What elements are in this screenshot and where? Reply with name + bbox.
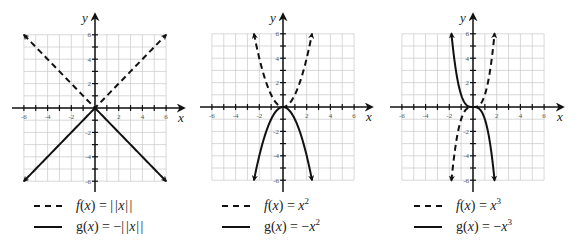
dashed-line-swatch xyxy=(222,205,250,207)
function-name: g xyxy=(456,219,463,234)
x-tick-label: 6 xyxy=(352,112,356,120)
function-power: 3 xyxy=(497,196,502,206)
legend-entry-f: f(x) = x2 xyxy=(222,196,309,216)
x-tick-label: -4 xyxy=(45,113,51,121)
y-axis-label: y xyxy=(458,10,466,25)
y-axis-label: y xyxy=(80,10,88,25)
solid-line-swatch xyxy=(414,226,442,228)
x-tick-label: 6 xyxy=(164,113,168,121)
x-axis-label: x xyxy=(365,109,372,124)
function-arg: (x) = xyxy=(460,198,490,213)
x-tick-label: 4 xyxy=(329,112,333,120)
y-tick-label: -4 xyxy=(273,152,279,160)
y-tick-label: -2 xyxy=(273,128,279,136)
y-tick-label: 2 xyxy=(276,79,280,87)
function-power: 2 xyxy=(305,196,310,206)
legend-label: g(x) = −x3 xyxy=(456,219,512,235)
dashed-line-swatch xyxy=(34,205,62,207)
legend-entry-f: f(x) = x3 xyxy=(414,196,501,216)
function-expr: |x| xyxy=(125,219,139,234)
legend-entry-g: g(x) = −x3 xyxy=(414,217,512,237)
x-tick-label: -4 xyxy=(423,112,429,120)
x-tick-label: 2 xyxy=(117,113,121,121)
x-tick-label: -6 xyxy=(209,112,215,120)
solid-line-swatch xyxy=(222,226,250,228)
y-tick-label: 6 xyxy=(276,30,280,38)
chart-1: -6-4-2246642-2-4-6xy xyxy=(12,10,184,192)
y-tick-label: 4 xyxy=(88,56,92,64)
y-axis-label: y xyxy=(268,10,276,25)
abs-expr: | |x| | xyxy=(110,198,132,213)
function-power: 3 xyxy=(508,217,513,227)
legend-entry-f: f(x) = | |x| | xyxy=(34,196,132,216)
solid-line-swatch xyxy=(34,226,62,228)
function-power: 2 xyxy=(316,217,321,227)
function-name: g xyxy=(76,219,83,234)
x-tick-label: -6 xyxy=(399,112,405,120)
x-tick-label: -2 xyxy=(446,112,452,120)
figure: -6-4-2246642-2-4-6xy-6-4-2246642-2-4-6xy… xyxy=(0,0,581,246)
function-name: g xyxy=(264,219,271,234)
x-tick-label: 4 xyxy=(519,112,523,120)
y-tick-label: 2 xyxy=(466,79,470,87)
legend-label: f(x) = x2 xyxy=(264,198,309,214)
legend-label: f(x) = | |x| | xyxy=(76,198,132,214)
legend-entry-g: g(x) = −x2 xyxy=(222,217,320,237)
y-tick-label: -4 xyxy=(85,153,91,161)
legend-label: g(x) = −| |x| | xyxy=(76,219,143,235)
y-tick-label: -2 xyxy=(463,128,469,136)
y-tick-label: 6 xyxy=(88,31,92,39)
x-tick-label: -4 xyxy=(233,112,239,120)
y-tick-label: -6 xyxy=(85,178,91,186)
y-tick-label: 4 xyxy=(466,55,470,63)
chart-2: -6-4-2246642-2-4-6xy xyxy=(200,10,372,192)
x-tick-label: 2 xyxy=(305,112,309,120)
y-tick-label: -2 xyxy=(85,129,91,137)
x-axis-label: x xyxy=(556,109,563,124)
x-tick-label: 6 xyxy=(542,112,546,120)
function-arg: (x) = xyxy=(83,219,113,234)
x-tick-label: 2 xyxy=(495,112,499,120)
function-arg: (x) = xyxy=(463,219,493,234)
chart-3: -6-4-2246642-2-4-6xy xyxy=(390,10,563,192)
y-tick-label: -6 xyxy=(273,177,279,185)
x-tick-label: -6 xyxy=(21,113,27,121)
abs-expr: | |x| | xyxy=(121,219,143,234)
dashed-line-swatch xyxy=(414,205,442,207)
y-tick-label: -6 xyxy=(463,177,469,185)
y-tick-label: 2 xyxy=(88,80,92,88)
x-tick-label: -2 xyxy=(68,113,74,121)
y-tick-label: -4 xyxy=(463,152,469,160)
legend-label: g(x) = −x2 xyxy=(264,219,320,235)
x-tick-label: -2 xyxy=(256,112,262,120)
x-tick-label: 4 xyxy=(141,113,145,121)
function-arg: (x) = xyxy=(268,198,298,213)
function-arg: (x) = xyxy=(80,198,110,213)
function-arg: (x) = xyxy=(271,219,301,234)
y-tick-label: 4 xyxy=(276,55,280,63)
function-expr: |x| xyxy=(114,198,128,213)
legend-entry-g: g(x) = −| |x| | xyxy=(34,217,143,237)
x-axis-label: x xyxy=(177,110,184,125)
legend-label: f(x) = x3 xyxy=(456,198,501,214)
y-tick-label: 6 xyxy=(466,30,470,38)
